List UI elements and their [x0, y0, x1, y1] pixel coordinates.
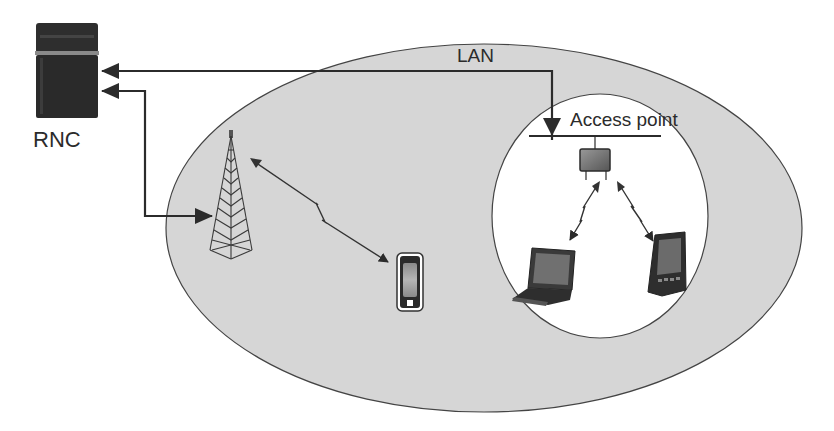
pda-icon: [648, 232, 686, 296]
lan-label: LAN: [457, 45, 494, 67]
rnc-server-icon: [35, 23, 99, 118]
access-point-label: Access point: [570, 109, 678, 131]
rnc-label: RNC: [33, 127, 81, 153]
diagram-canvas: [0, 0, 834, 431]
mobile-phone-icon: [397, 253, 423, 311]
